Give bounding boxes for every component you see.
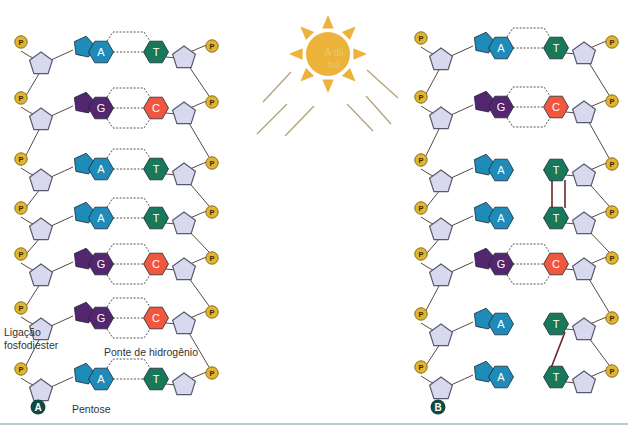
panel-badge-B: B — [431, 400, 446, 415]
svg-text:G: G — [497, 101, 506, 113]
svg-text:A: A — [497, 371, 505, 383]
pentose-sugar — [173, 312, 196, 334]
phosphate-group: P — [415, 32, 427, 44]
svg-text:A: A — [34, 402, 41, 413]
pentose-sugar — [430, 218, 453, 240]
panel-badge-A: A — [31, 400, 46, 415]
svg-text:P: P — [418, 310, 423, 319]
pentose-sugar — [573, 212, 596, 234]
svg-text:P: P — [209, 159, 214, 168]
svg-text:P: P — [418, 93, 423, 102]
phosphate-group: P — [206, 367, 218, 379]
base-pair-G-C: GC — [74, 302, 168, 329]
svg-text:C: C — [152, 102, 160, 114]
svg-text:P: P — [418, 250, 423, 259]
phosphate-group: P — [415, 308, 427, 320]
phosphate-group: P — [206, 306, 218, 318]
svg-text:P: P — [209, 42, 214, 51]
pentose-sugar — [30, 52, 53, 74]
base-C: C — [144, 307, 169, 329]
phosphate-group: P — [415, 361, 427, 373]
base-T: T — [544, 313, 569, 335]
base-T: T — [544, 159, 569, 181]
svg-text:A: A — [97, 373, 105, 385]
svg-text:T: T — [153, 212, 160, 224]
phosphate-group: P — [206, 157, 218, 169]
base-pair-G-C: GC — [474, 248, 568, 275]
phosphate-group: P — [15, 248, 27, 260]
base-T: T — [144, 41, 169, 63]
svg-text:C: C — [552, 258, 560, 270]
hydrogen-bonds — [507, 28, 550, 48]
svg-text:A: A — [497, 212, 505, 224]
hydrogen-bonds — [107, 359, 150, 379]
svg-text:T: T — [553, 371, 560, 383]
svg-text:P: P — [418, 156, 423, 165]
svg-text:G: G — [97, 312, 106, 324]
phosphate-group: P — [15, 153, 27, 165]
base-pair-A-T: AT — [474, 308, 568, 335]
svg-text:C: C — [152, 258, 160, 270]
base-pair-A-T: AT — [474, 32, 568, 59]
pentose-sugar — [173, 373, 196, 395]
phosphate-group: P — [206, 40, 218, 52]
svg-text:P: P — [18, 155, 23, 164]
svg-text:T: T — [553, 318, 560, 330]
svg-text:P: P — [609, 367, 614, 376]
svg-text:A: A — [97, 163, 105, 175]
svg-text:P: P — [18, 365, 23, 374]
base-pair-G-C: GC — [74, 92, 168, 119]
phosphate-group: P — [206, 252, 218, 264]
label-ponte-hidrogenio: Ponte de hidrogênio — [104, 346, 198, 359]
svg-text:C: C — [152, 312, 160, 324]
svg-text:T: T — [153, 163, 160, 175]
pentose-sugar — [173, 212, 196, 234]
pentose-sugar — [173, 102, 196, 124]
pentose-sugar — [573, 371, 596, 393]
svg-text:bsi: bsi — [328, 60, 340, 70]
base-pair-A-T: AT — [74, 202, 168, 229]
base-T: T — [544, 37, 569, 59]
svg-text:P: P — [418, 34, 423, 43]
svg-text:A: A — [97, 212, 105, 224]
base-pair-G-C: GC — [474, 91, 568, 118]
base-pair-A-T: AT — [74, 153, 168, 180]
pentose-sugar — [430, 324, 453, 346]
pentose-sugar — [30, 218, 53, 240]
pentose-sugar — [30, 108, 53, 130]
svg-text:P: P — [609, 314, 614, 323]
svg-text:G: G — [97, 102, 106, 114]
pentose-sugar — [573, 258, 596, 280]
diagram-canvas: PATPPGCPPATPPATPPGCPPGCPPATPAPATPPGCPPAT… — [0, 0, 628, 434]
phosphate-group: P — [606, 36, 618, 48]
base-pair-A-T: AT — [474, 202, 568, 229]
pentose-sugar — [430, 264, 453, 286]
phosphate-group: P — [206, 206, 218, 218]
phosphate-group: P — [415, 248, 427, 260]
phosphate-group: P — [606, 158, 618, 170]
svg-text:P: P — [418, 363, 423, 372]
pentose-sugar — [430, 170, 453, 192]
base-A: A — [474, 361, 513, 388]
base-A: A — [474, 308, 513, 335]
svg-text:A: A — [497, 318, 505, 330]
panel-B: PATPPGCPPATPPATPPGCPPATPPATPB — [415, 28, 618, 415]
svg-text:T: T — [553, 164, 560, 176]
svg-text:P: P — [18, 94, 23, 103]
svg-text:P: P — [609, 38, 614, 47]
svg-text:G: G — [97, 258, 106, 270]
label-ligacao-fosfodiester: Ligação fosfodiester — [4, 326, 58, 352]
dna-uv-diagram: PATPPGCPPATPPATPPGCPPGCPPATPAPATPPGCPPAT… — [0, 0, 628, 434]
svg-text:P: P — [209, 254, 214, 263]
label-ligacao-line1: Ligação — [4, 326, 58, 339]
base-pair-A-T: AT — [474, 361, 568, 388]
pentose-sugar — [573, 42, 596, 64]
base-T: T — [544, 207, 569, 229]
pentose-sugar — [30, 264, 53, 286]
hydrogen-bonds — [107, 149, 150, 169]
svg-text:P: P — [209, 98, 214, 107]
pentose-sugar — [573, 164, 596, 186]
phosphate-group: P — [206, 96, 218, 108]
hydrogen-bonds — [107, 198, 150, 218]
sun-uv-icon: A diibsi — [289, 15, 367, 93]
